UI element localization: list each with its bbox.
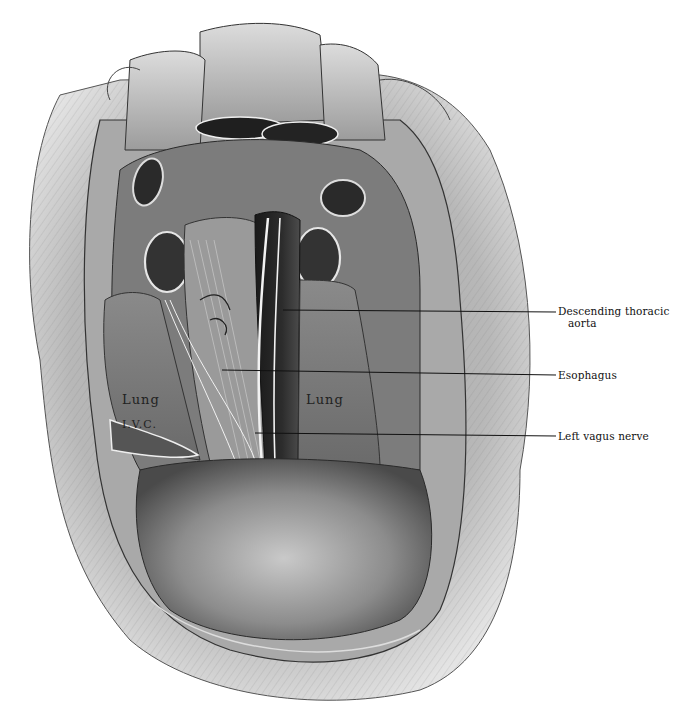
ivc-label: I.V.C. xyxy=(122,418,157,431)
anatomical-illustration xyxy=(0,0,685,727)
lung-label-left: Lung xyxy=(122,392,160,407)
callout-esophagus: Esophagus xyxy=(558,369,617,381)
lung-label-right: Lung xyxy=(306,392,344,407)
callout-left-vagus-nerve: Left vagus nerve xyxy=(558,430,649,442)
callout-text: Descending thoracic xyxy=(558,305,669,317)
callout-text-line2: aorta xyxy=(558,317,669,329)
callout-descending-thoracic-aorta: Descending thoracic aorta xyxy=(558,305,669,329)
callout-text: Left vagus nerve xyxy=(558,430,649,442)
callout-text: Esophagus xyxy=(558,369,617,381)
